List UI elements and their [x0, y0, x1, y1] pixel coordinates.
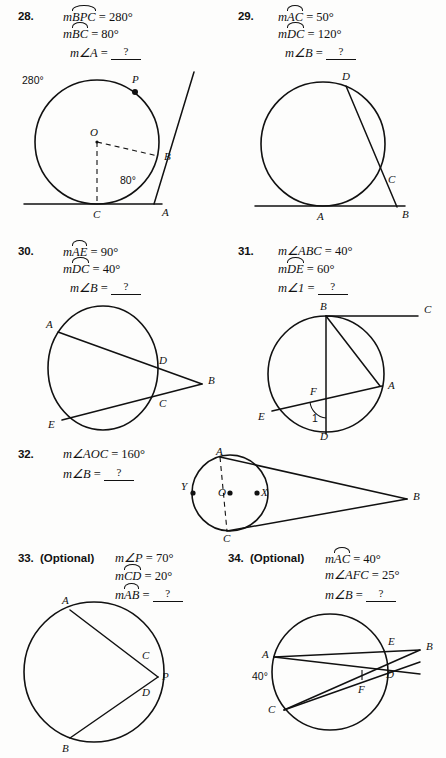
- radius-OB: [97, 142, 158, 156]
- measure-prefix: m: [115, 551, 124, 565]
- relation: =: [108, 447, 121, 461]
- problem-32-line-1: m∠AOC = 160°: [63, 446, 145, 462]
- label-A: A: [316, 210, 324, 222]
- arc-name: BC: [72, 25, 88, 42]
- relation: =: [350, 552, 363, 566]
- label-P: P: [161, 670, 169, 682]
- problem-33-number: 33.: [18, 552, 33, 564]
- problem-31-number: 31.: [238, 245, 253, 257]
- relation: =: [88, 27, 101, 41]
- relation: =: [304, 281, 317, 295]
- value: 120°: [318, 27, 342, 41]
- measure-prefix: m: [115, 569, 124, 583]
- problem-33-line-2: mCD = 20°: [115, 567, 172, 584]
- relation: =: [322, 244, 335, 258]
- problem-28-line-1: mBPC = 280°: [63, 8, 133, 25]
- point-P: [132, 89, 138, 95]
- problem-31-line-2: mDE = 60°: [278, 260, 335, 277]
- secant-AB: [58, 332, 202, 384]
- problem-29-figure: D C A B: [245, 68, 440, 223]
- answer-blank[interactable]: ?: [111, 43, 141, 60]
- answer-blank[interactable]: ?: [318, 278, 348, 295]
- center-point-O: [227, 490, 232, 495]
- value: 60°: [317, 262, 335, 276]
- secant-CE: [284, 650, 420, 710]
- label-Y: Y: [181, 480, 189, 492]
- label-B: B: [320, 300, 327, 312]
- problem-31-line-1: m∠ABC = 40°: [278, 243, 352, 259]
- value: 70°: [156, 551, 174, 565]
- arc-name: DE: [287, 260, 304, 277]
- problem-30-line-3: m∠B = ?: [70, 278, 141, 296]
- label-D: D: [341, 70, 350, 82]
- problem-32-figure: A Y O X C B: [185, 448, 435, 540]
- angle-name: ∠AFC: [334, 568, 369, 582]
- arc-name: AC: [334, 550, 350, 567]
- label-O: O: [218, 486, 226, 498]
- problem-32-line-2: m∠B = ?: [63, 464, 134, 482]
- problem-30-figure: A D B C E: [20, 302, 225, 434]
- circle-30: [48, 306, 158, 430]
- relation: =: [89, 262, 102, 276]
- tangent-AB: [220, 457, 407, 499]
- answer-blank[interactable]: ?: [326, 43, 356, 60]
- label-A: A: [387, 379, 395, 391]
- label-B: B: [62, 742, 69, 754]
- arc-name: AE: [72, 243, 87, 260]
- angle-name: ∠1: [287, 281, 304, 295]
- measure-prefix: m: [63, 27, 72, 41]
- worksheet-page: 28. mBPC = 280° mBC = 80° m∠A = ? O P B …: [0, 0, 446, 758]
- annotation-angle-1: 1: [312, 412, 318, 424]
- label-D: D: [158, 354, 167, 366]
- problem-34-line-1: mAC = 40°: [325, 550, 381, 567]
- label-F: F: [309, 385, 317, 397]
- problem-32-number: 32.: [18, 448, 33, 460]
- label-D: D: [141, 686, 150, 698]
- value: 25°: [382, 568, 400, 582]
- arc-name: BPC: [72, 8, 96, 25]
- annotation-280-degrees: 280°: [22, 74, 44, 86]
- measure-prefix: m: [325, 568, 334, 582]
- label-E: E: [47, 418, 55, 430]
- answer-blank[interactable]: ?: [104, 464, 134, 481]
- label-C: C: [142, 649, 150, 661]
- answer-blank[interactable]: ?: [111, 278, 141, 295]
- problem-29-line-1: mAC = 50°: [278, 8, 334, 25]
- value: 20°: [155, 569, 173, 583]
- problem-34-figure: A E B D F C 40°: [248, 600, 446, 752]
- secant-CB: [284, 662, 420, 710]
- problem-29-line-2: mDC = 120°: [278, 25, 341, 42]
- value: 40°: [103, 262, 121, 276]
- measure-prefix: m: [63, 10, 72, 24]
- problem-33-figure: A C P D B: [18, 590, 208, 755]
- angle-name: ∠ABC: [287, 244, 322, 258]
- relation: =: [143, 551, 156, 565]
- measure-prefix: m: [63, 245, 72, 259]
- secant-EB: [62, 384, 202, 420]
- circle-29: [261, 82, 385, 206]
- label-B: B: [402, 208, 409, 220]
- label-B: B: [208, 374, 215, 386]
- label-B: B: [426, 640, 433, 652]
- measure-prefix: m: [278, 244, 287, 258]
- label-B: B: [164, 150, 171, 162]
- problem-34-number: 34.: [228, 552, 243, 564]
- angle-name: ∠B: [72, 467, 91, 481]
- relation: =: [369, 568, 382, 582]
- annotation-80-degrees: 80°: [120, 174, 136, 186]
- relation: =: [98, 281, 111, 295]
- measure-prefix: m: [278, 10, 287, 24]
- annotation-40-degrees: 40°: [252, 670, 268, 682]
- angle-name: ∠B: [79, 281, 98, 295]
- relation: =: [313, 46, 326, 60]
- measure-prefix: m: [278, 281, 287, 295]
- value: 50°: [316, 10, 334, 24]
- relation: =: [303, 10, 316, 24]
- label-C: C: [93, 208, 101, 220]
- chord-AE-extended: [274, 650, 420, 657]
- label-E: E: [387, 635, 395, 647]
- label-F: F: [357, 683, 365, 695]
- value: 280°: [109, 10, 133, 24]
- relation: =: [141, 569, 154, 583]
- problem-28-figure: O P B C A 280° 80°: [12, 62, 217, 222]
